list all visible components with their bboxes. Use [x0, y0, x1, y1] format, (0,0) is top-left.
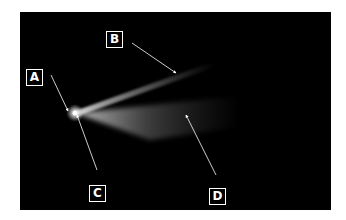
- label-d: D: [209, 188, 226, 205]
- label-b: B: [106, 31, 123, 48]
- label-c: C: [89, 185, 106, 202]
- label-a: A: [26, 69, 43, 86]
- arrow-b: [132, 43, 176, 73]
- comet-illustration: [0, 0, 346, 220]
- arrow-c: [77, 115, 97, 170]
- nucleus: [73, 111, 78, 116]
- arrow-a: [51, 75, 68, 111]
